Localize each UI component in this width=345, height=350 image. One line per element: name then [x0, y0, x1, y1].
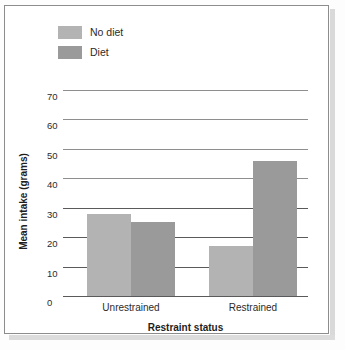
legend-item-no-diet: No diet: [58, 24, 123, 41]
ytick-label-70: 70: [47, 92, 61, 102]
x-axis-title: Restraint status: [63, 322, 308, 333]
ytick-label-20: 20: [47, 239, 61, 249]
bar-restrained-no-diet: [209, 246, 253, 296]
xtick-label-unrestrained: Unrestrained: [71, 302, 191, 313]
gridline-50: [63, 149, 308, 150]
ytick-label-0: 0: [47, 298, 61, 308]
gridline-70: [63, 90, 308, 91]
axis-baseline: [63, 296, 308, 297]
xtick-label-restrained: Restrained: [193, 302, 313, 313]
page-shadow-bottom: [9, 335, 335, 340]
chart-legend: No diet Diet: [58, 24, 123, 64]
chart-figure: No diet Diet 70 60 50 40 30 20 1: [0, 0, 345, 350]
ytick-label-30: 30: [47, 210, 61, 220]
page-shadow-right: [330, 9, 335, 339]
ytick-label-40: 40: [47, 180, 61, 190]
plot-area: 70 60 50 40 30 20 10 0 Unrestrained Rest…: [63, 90, 308, 296]
legend-swatch-no-diet: [58, 26, 82, 39]
ytick-label-60: 60: [47, 121, 61, 131]
bar-unrestrained-no-diet: [87, 214, 131, 296]
bar-unrestrained-diet: [131, 222, 175, 296]
chart-frame: No diet Diet 70 60 50 40 30 20 1: [4, 5, 329, 334]
ytick-label-50: 50: [47, 151, 61, 161]
legend-swatch-diet: [58, 46, 82, 59]
ytick-label-10: 10: [47, 269, 61, 279]
gridline-60: [63, 119, 308, 120]
y-axis-title: Mean intake (grams): [18, 122, 29, 282]
legend-item-diet: Diet: [58, 44, 123, 61]
bar-restrained-diet: [253, 161, 297, 296]
legend-label-diet: Diet: [90, 46, 109, 59]
legend-label-no-diet: No diet: [90, 26, 123, 39]
